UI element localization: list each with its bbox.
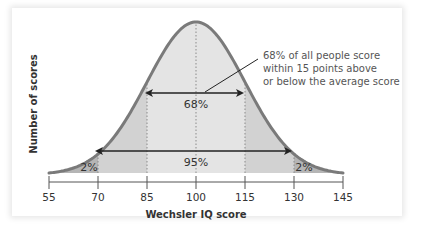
- annotation-line-1: 68% of all people score: [263, 50, 380, 61]
- tick-label-85: 85: [140, 191, 153, 203]
- annotation-line-2: within 15 points above: [263, 63, 377, 74]
- range-68-label: 68%: [184, 98, 208, 111]
- tail-left-label: 2%: [80, 161, 97, 174]
- y-axis-title: Number of scores: [28, 54, 39, 153]
- tick-label-145: 145: [333, 191, 353, 203]
- x-axis-title: Wechsler IQ score: [145, 209, 246, 220]
- tick-label-70: 70: [91, 191, 104, 203]
- range-95-label: 95%: [184, 156, 208, 169]
- tick-label-100: 100: [186, 191, 206, 203]
- tail-right-label: 2%: [295, 161, 312, 174]
- tick-label-130: 130: [284, 191, 304, 203]
- bell-curve-chart: 68% 95% 2% 2% 68% of all people score wi…: [0, 0, 428, 244]
- chart-stage: 68% 95% 2% 2% 68% of all people score wi…: [0, 0, 428, 244]
- annotation-line-3: or below the average score: [263, 76, 400, 87]
- tick-label-55: 55: [42, 191, 55, 203]
- tick-label-115: 115: [235, 191, 255, 203]
